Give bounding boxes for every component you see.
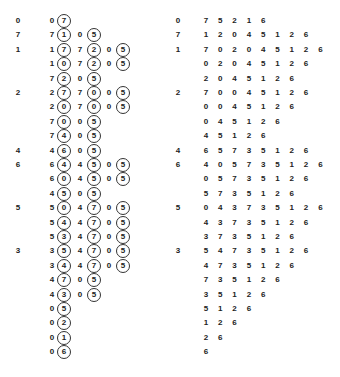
digit: 7 bbox=[199, 43, 213, 57]
digit: 6 bbox=[213, 331, 227, 345]
circled-digit: 5 bbox=[87, 172, 101, 186]
circled-digit: 5 bbox=[116, 43, 130, 57]
circled-digit: 5 bbox=[116, 216, 130, 230]
digit: 0 bbox=[213, 72, 227, 86]
digit: 1 bbox=[271, 144, 285, 158]
circled-digit: 1 bbox=[57, 331, 71, 345]
digit: 1 bbox=[242, 115, 256, 129]
digit: 7 bbox=[228, 216, 242, 230]
digit: 2 bbox=[228, 14, 242, 28]
digit: 6 bbox=[299, 216, 313, 230]
digit: 1 bbox=[285, 201, 299, 215]
digit: 5 bbox=[242, 187, 256, 201]
digit: 0 bbox=[199, 115, 213, 129]
digit: 1 bbox=[271, 86, 285, 100]
digit: 2 bbox=[285, 172, 299, 186]
digit: 5 bbox=[213, 288, 227, 302]
digit: 2 bbox=[271, 100, 285, 114]
digit: 6 bbox=[299, 244, 313, 258]
left-row: 344705 bbox=[0, 259, 170, 273]
digit: 1 bbox=[213, 302, 227, 316]
digit: 0 bbox=[102, 57, 116, 71]
digit: 4 bbox=[199, 129, 213, 143]
circled-digit: 6 bbox=[57, 144, 71, 158]
digit: 0 bbox=[73, 72, 87, 86]
digit: 1 bbox=[256, 259, 270, 273]
digit: 1 bbox=[228, 288, 242, 302]
digit: 6 bbox=[313, 43, 327, 57]
digit: 6 bbox=[199, 144, 213, 158]
digit: 1 bbox=[199, 316, 213, 330]
right-row: 5043735126 bbox=[170, 201, 340, 215]
circled-digit: 3 bbox=[57, 230, 71, 244]
digit: 2 bbox=[256, 273, 270, 287]
left-row: 3354705 bbox=[0, 244, 170, 258]
digit: 0 bbox=[102, 43, 116, 57]
digit: 6 bbox=[285, 100, 299, 114]
digit: 2 bbox=[271, 259, 285, 273]
row-label: 7 bbox=[13, 28, 23, 42]
digit: 4 bbox=[242, 28, 256, 42]
digit: 7 bbox=[73, 57, 87, 71]
digit: 5 bbox=[271, 43, 285, 57]
left-row: 06 bbox=[0, 345, 170, 359]
digit: 0 bbox=[102, 100, 116, 114]
circled-digit: 5 bbox=[87, 72, 101, 86]
left-row: 05 bbox=[0, 302, 170, 316]
digit: 2 bbox=[213, 57, 227, 71]
right-row: 5126 bbox=[170, 302, 340, 316]
right-row: 045126 bbox=[170, 115, 340, 129]
row-label: 4 bbox=[13, 144, 23, 158]
digit: 4 bbox=[199, 259, 213, 273]
digit: 2 bbox=[242, 288, 256, 302]
digit: 6 bbox=[199, 345, 213, 359]
digit: 3 bbox=[256, 158, 270, 172]
digit: 5 bbox=[256, 216, 270, 230]
digit: 5 bbox=[256, 172, 270, 186]
circled-digit: 5 bbox=[87, 288, 101, 302]
right-row: 712045126 bbox=[170, 28, 340, 42]
circled-digit: 0 bbox=[57, 100, 71, 114]
digit: 0 bbox=[102, 86, 116, 100]
left-row: 007 bbox=[0, 14, 170, 28]
digit: 0 bbox=[199, 172, 213, 186]
digit: 5 bbox=[242, 100, 256, 114]
row-label: 4 bbox=[173, 144, 183, 158]
circled-digit: 7 bbox=[87, 244, 101, 258]
digit: 0 bbox=[213, 43, 227, 57]
digit: 5 bbox=[256, 86, 270, 100]
digit: 5 bbox=[213, 144, 227, 158]
digit: 4 bbox=[73, 172, 87, 186]
right-row: 6405735126 bbox=[170, 158, 340, 172]
left-row: 5504705 bbox=[0, 201, 170, 215]
right-row: 4735126 bbox=[170, 259, 340, 273]
digit: 4 bbox=[228, 72, 242, 86]
circled-digit: 4 bbox=[57, 129, 71, 143]
digit: 5 bbox=[228, 115, 242, 129]
digit: 3 bbox=[213, 273, 227, 287]
digit: 7 bbox=[199, 86, 213, 100]
digit: 2 bbox=[256, 115, 270, 129]
digit: 3 bbox=[199, 288, 213, 302]
digit: 4 bbox=[199, 158, 213, 172]
right-row: 5735126 bbox=[170, 187, 340, 201]
left-row: 01 bbox=[0, 331, 170, 345]
digit: 5 bbox=[213, 129, 227, 143]
digit: 0 bbox=[73, 273, 87, 287]
digit: 0 bbox=[102, 230, 116, 244]
digit: 2 bbox=[213, 316, 227, 330]
digit: 0 bbox=[242, 43, 256, 57]
circled-digit: 7 bbox=[87, 216, 101, 230]
left-row: 1177205 bbox=[0, 43, 170, 57]
digit: 3 bbox=[213, 216, 227, 230]
digit: 5 bbox=[228, 273, 242, 287]
left-row: 6644505 bbox=[0, 158, 170, 172]
left-row: 534705 bbox=[0, 230, 170, 244]
circled-digit: 2 bbox=[87, 57, 101, 71]
digit: 2 bbox=[299, 201, 313, 215]
row-label: 0 bbox=[13, 14, 23, 28]
digit: 6 bbox=[242, 302, 256, 316]
circled-digit: 5 bbox=[87, 28, 101, 42]
digit: 4 bbox=[213, 115, 227, 129]
right-row: 465735126 bbox=[170, 144, 340, 158]
